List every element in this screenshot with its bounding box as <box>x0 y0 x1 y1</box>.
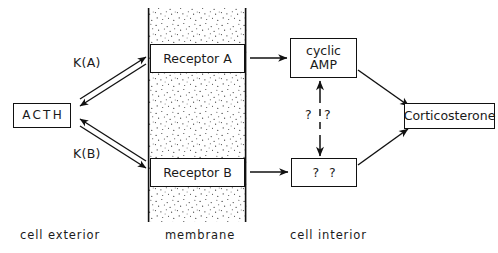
question-mark-right-label: ? <box>324 107 331 122</box>
receptor-b-label: Receptor B <box>163 166 232 180</box>
corticosterone-node: Corticosterone <box>404 103 495 129</box>
receptor-b-node: Receptor B <box>150 158 245 187</box>
caption-cell-interior: cell interior <box>290 228 367 242</box>
k-b-edge-label: K(B) <box>73 146 101 161</box>
membrane-slab <box>148 8 246 222</box>
acth-label: ACTH <box>20 109 64 122</box>
unknown-mediator-label: ? ? <box>309 166 338 180</box>
cyclic-amp-label-line1: cyclic <box>306 44 341 58</box>
acth-node: ACTH <box>13 103 71 128</box>
caption-cell-exterior: cell exterior <box>20 228 100 242</box>
unknown-mediator-node: ? ? <box>291 158 357 187</box>
cyclic-amp-label-line2: AMP <box>310 58 337 72</box>
camp-to-corticosterone-arrow <box>358 70 409 106</box>
question-mark-left-label: ? <box>305 107 312 122</box>
receptor-a-node: Receptor A <box>150 44 245 73</box>
caption-membrane: membrane <box>165 228 235 242</box>
receptor-a-label: Receptor A <box>163 52 232 66</box>
unknown-to-corticosterone-arrow <box>358 129 408 165</box>
cyclic-amp-node: cyclic AMP <box>290 38 357 78</box>
corticosterone-label: Corticosterone <box>404 109 496 123</box>
k-a-edge-label: K(A) <box>73 55 101 70</box>
